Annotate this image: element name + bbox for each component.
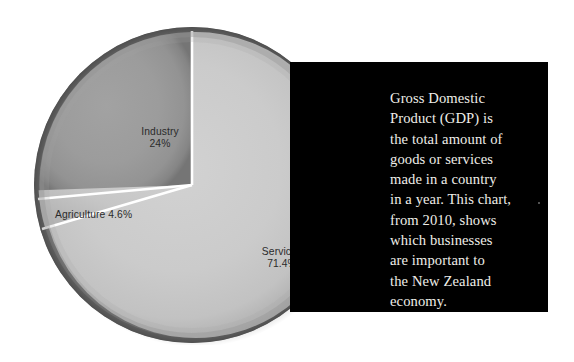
pie-label-industry-name: Industry xyxy=(106,126,214,138)
figure-root: Gross Domestic Product (GDP) is the tota… xyxy=(0,0,574,362)
pie-label-industry: Industry 24% xyxy=(106,126,214,151)
info-panel-body-text: Gross Domestic Product (GDP) is the tota… xyxy=(390,88,540,311)
info-panel: Gross Domestic Product (GDP) is the tota… xyxy=(290,62,548,312)
pie-label-agriculture: Agriculture 4.6% xyxy=(55,209,185,221)
panel-speck-artifact xyxy=(538,202,540,204)
pie-label-industry-value: 24% xyxy=(106,138,214,150)
